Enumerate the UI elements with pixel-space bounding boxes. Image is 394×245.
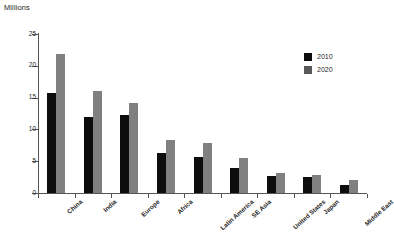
x-axis-category-label: China xyxy=(66,198,84,215)
x-axis-category-label: Europe xyxy=(140,198,161,218)
bar xyxy=(349,180,358,193)
bar xyxy=(230,168,239,193)
bar xyxy=(129,103,138,193)
x-axis-category-label: Latin America xyxy=(218,198,254,231)
legend-swatch-icon xyxy=(304,66,312,74)
legend-item: 2010 xyxy=(304,50,333,63)
bar xyxy=(203,143,212,193)
x-axis-category-label: Middle East xyxy=(363,198,394,227)
x-axis-category-label: Africa xyxy=(176,198,194,215)
x-axis-tick xyxy=(294,194,295,198)
x-axis-tick xyxy=(184,194,185,198)
x-axis-tick xyxy=(148,194,149,198)
bar-group xyxy=(267,34,285,193)
x-axis-line xyxy=(38,193,367,194)
bar xyxy=(166,140,175,193)
bar xyxy=(56,54,65,193)
bar xyxy=(47,93,56,193)
bar-group xyxy=(157,34,175,193)
x-axis-tick xyxy=(221,194,222,198)
y-axis-tick-label: 20 xyxy=(29,61,36,69)
legend-item: 2020 xyxy=(304,63,333,76)
bar-group xyxy=(84,34,102,193)
bar xyxy=(157,153,166,193)
x-axis-tick xyxy=(257,194,258,198)
bar xyxy=(93,91,102,193)
y-axis-tick-label: 25 xyxy=(29,30,36,38)
bar xyxy=(84,117,93,193)
legend-swatch-icon xyxy=(304,53,312,61)
y-axis-line xyxy=(38,33,39,194)
x-axis-category-label: India xyxy=(102,198,118,213)
x-axis-tick xyxy=(75,194,76,198)
bar xyxy=(120,115,129,193)
y-axis-tick-label: 10 xyxy=(29,125,36,133)
bar xyxy=(276,173,285,193)
bar-group xyxy=(194,34,212,193)
legend-label: 2020 xyxy=(317,66,333,74)
y-axis-tick-label: 0 xyxy=(32,189,36,197)
y-axis-tick-label: 5 xyxy=(32,157,36,165)
chart-title: Millions xyxy=(4,3,30,12)
x-axis-tick xyxy=(38,194,39,198)
bar xyxy=(312,175,321,193)
legend-label: 2010 xyxy=(317,53,333,61)
bar-group xyxy=(230,34,248,193)
bar xyxy=(239,158,248,193)
bar-group xyxy=(120,34,138,193)
chart-legend: 20102020 xyxy=(304,50,333,76)
bar xyxy=(194,157,203,193)
bar xyxy=(267,176,276,193)
x-axis-tick xyxy=(330,194,331,198)
bar-group xyxy=(340,34,358,193)
bar-group xyxy=(47,34,65,193)
bar xyxy=(340,185,349,193)
bar xyxy=(303,177,312,193)
x-axis-category-label: United States xyxy=(291,198,326,231)
x-axis-tick xyxy=(367,194,368,198)
y-axis-tick-label: 15 xyxy=(29,93,36,101)
